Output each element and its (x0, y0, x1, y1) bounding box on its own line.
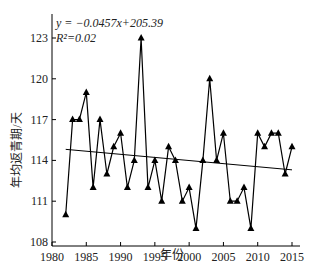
y-tick-label: 108 (30, 235, 48, 249)
triangle-marker (227, 197, 234, 204)
triangle-marker (138, 34, 145, 41)
triangle-marker (261, 143, 268, 150)
triangle-marker (131, 156, 138, 163)
triangle-marker (199, 156, 206, 163)
triangle-marker (97, 116, 104, 123)
x-tick-label: 2005 (211, 250, 235, 264)
y-tick-label: 111 (31, 194, 48, 208)
triangle-marker (220, 129, 227, 136)
trend-line (66, 149, 292, 170)
triangle-marker (110, 143, 117, 150)
y-axis-label: 年均返青期/天 (10, 112, 24, 187)
equation-label: y = −0.0457x+205.39 (55, 16, 163, 30)
triangle-marker (206, 75, 213, 82)
triangle-marker (247, 224, 254, 231)
triangle-marker (145, 184, 152, 191)
triangle-marker (117, 129, 124, 136)
y-tick-label: 120 (30, 72, 48, 86)
triangle-marker (103, 170, 110, 177)
triangle-marker (213, 156, 220, 163)
triangle-marker (83, 88, 90, 95)
triangle-marker (254, 129, 261, 136)
triangle-marker (241, 184, 248, 191)
triangle-marker (268, 129, 275, 136)
triangle-marker (158, 197, 165, 204)
triangle-marker (234, 197, 241, 204)
triangle-marker (282, 170, 289, 177)
x-tick-label: 1985 (74, 250, 98, 264)
y-tick-label: 123 (30, 31, 48, 45)
triangle-marker (76, 116, 83, 123)
triangle-marker (165, 143, 172, 150)
x-tick-label: 1990 (109, 250, 133, 264)
triangle-marker (124, 184, 131, 191)
triangle-marker (90, 184, 97, 191)
triangle-marker (69, 116, 76, 123)
x-tick-label: 1980 (40, 250, 64, 264)
r-squared-label: R²=0.02 (55, 31, 96, 45)
triangle-marker (62, 211, 69, 218)
y-tick-label: 117 (30, 113, 48, 127)
x-axis-label: 年份 (160, 248, 184, 262)
triangle-marker (289, 143, 296, 150)
x-tick-label: 2015 (280, 250, 304, 264)
triangle-marker (275, 129, 282, 136)
triangle-marker (186, 184, 193, 191)
data-series (62, 34, 295, 231)
triangle-marker (179, 197, 186, 204)
y-tick-label: 114 (30, 153, 48, 167)
x-tick-label: 2010 (246, 250, 270, 264)
chart: 1081111141171201231980198519901995200020… (0, 0, 317, 266)
triangle-marker (193, 224, 200, 231)
